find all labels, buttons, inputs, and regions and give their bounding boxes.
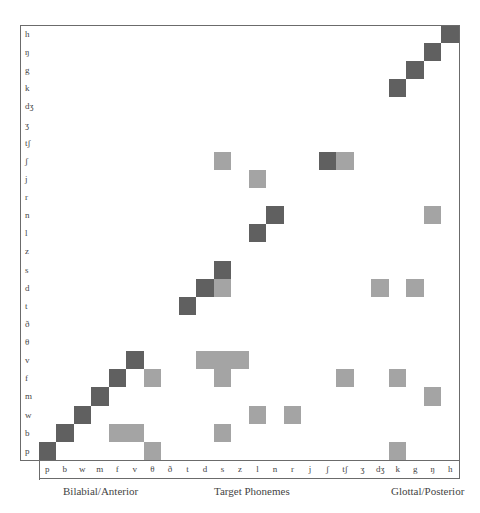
matrix-cell xyxy=(161,369,180,388)
matrix-cell xyxy=(161,188,180,207)
matrix-cell xyxy=(441,369,460,388)
matrix-cell xyxy=(231,242,250,261)
matrix-cell xyxy=(249,315,268,334)
matrix-cell xyxy=(266,43,285,62)
matrix-cell xyxy=(56,351,75,370)
matrix-cell xyxy=(266,406,285,425)
matrix-cell xyxy=(319,242,338,261)
matrix-cell xyxy=(214,261,233,280)
matrix-cell xyxy=(179,424,198,443)
matrix-cell xyxy=(371,97,390,116)
matrix-cell xyxy=(266,97,285,116)
matrix-cell xyxy=(91,43,110,62)
matrix-cell xyxy=(74,424,93,443)
matrix-cell xyxy=(56,333,75,352)
matrix-cell xyxy=(109,152,128,171)
matrix-cell xyxy=(319,97,338,116)
matrix-cell xyxy=(389,442,408,461)
matrix-cell xyxy=(91,369,110,388)
matrix-cell xyxy=(284,406,303,425)
matrix-cell xyxy=(389,97,408,116)
matrix-cell xyxy=(39,279,58,298)
matrix-cell xyxy=(126,369,145,388)
matrix-cell xyxy=(74,206,93,225)
column-label: ð xyxy=(161,460,180,480)
matrix-cell xyxy=(196,242,215,261)
matrix-cell xyxy=(109,333,128,352)
matrix-cell xyxy=(371,406,390,425)
matrix-cell xyxy=(56,261,75,280)
matrix-cell xyxy=(214,25,233,44)
matrix-cell xyxy=(126,25,145,44)
matrix-cell xyxy=(371,351,390,370)
matrix-cell xyxy=(179,206,198,225)
matrix-cell xyxy=(336,79,355,98)
matrix-cell xyxy=(406,387,425,406)
matrix-cell xyxy=(301,279,320,298)
matrix-cell xyxy=(39,97,58,116)
matrix-cell xyxy=(301,116,320,135)
matrix-cell xyxy=(231,61,250,80)
matrix-cell xyxy=(56,224,75,243)
matrix-cell xyxy=(74,43,93,62)
matrix-cell xyxy=(74,97,93,116)
matrix-cell xyxy=(109,116,128,135)
axis-annotation-left: Bilabial/Anterior xyxy=(63,485,138,497)
matrix-cell xyxy=(301,79,320,98)
matrix-cell xyxy=(214,79,233,98)
matrix-cell xyxy=(441,333,460,352)
matrix-cell xyxy=(424,406,443,425)
matrix-cell xyxy=(91,61,110,80)
matrix-cell xyxy=(266,188,285,207)
matrix-cell xyxy=(406,351,425,370)
matrix-cell xyxy=(74,152,93,171)
matrix-cell xyxy=(39,206,58,225)
matrix-cell xyxy=(371,279,390,298)
matrix-cell xyxy=(109,43,128,62)
column-label: j xyxy=(301,460,320,480)
matrix-cell xyxy=(319,351,338,370)
matrix-cell xyxy=(371,61,390,80)
matrix-cell xyxy=(196,315,215,334)
matrix-cell xyxy=(406,170,425,189)
matrix-cell xyxy=(126,134,145,153)
matrix-cell xyxy=(39,79,58,98)
matrix-cell xyxy=(231,387,250,406)
matrix-cell xyxy=(196,116,215,135)
matrix-cell xyxy=(266,424,285,443)
row-label: r xyxy=(20,188,40,207)
matrix-cell xyxy=(424,424,443,443)
matrix-cell xyxy=(424,170,443,189)
matrix-cell xyxy=(301,25,320,44)
matrix-cell xyxy=(249,351,268,370)
matrix-cell xyxy=(406,279,425,298)
matrix-cell xyxy=(214,61,233,80)
row-label: n xyxy=(20,206,40,225)
matrix-cell xyxy=(266,333,285,352)
matrix-cell xyxy=(336,279,355,298)
matrix-cell xyxy=(284,206,303,225)
matrix-cell xyxy=(249,152,268,171)
matrix-cell xyxy=(109,206,128,225)
matrix-cell xyxy=(196,424,215,443)
matrix-cell xyxy=(249,333,268,352)
matrix-cell xyxy=(126,188,145,207)
matrix-cell xyxy=(301,170,320,189)
matrix-cell xyxy=(161,134,180,153)
matrix-cell xyxy=(74,116,93,135)
matrix-cell xyxy=(74,224,93,243)
column-label: t xyxy=(179,460,198,480)
matrix-cell xyxy=(441,43,460,62)
matrix-cell xyxy=(109,97,128,116)
matrix-cell xyxy=(56,116,75,135)
matrix-cell xyxy=(161,406,180,425)
matrix-cell xyxy=(284,43,303,62)
matrix-cell xyxy=(39,25,58,44)
matrix-cell xyxy=(144,279,163,298)
x-axis-title: Target Phonemes xyxy=(214,485,290,497)
matrix-cell xyxy=(196,297,215,316)
matrix-cell xyxy=(161,297,180,316)
matrix-cell xyxy=(196,333,215,352)
matrix-cell xyxy=(39,261,58,280)
matrix-cell xyxy=(441,134,460,153)
